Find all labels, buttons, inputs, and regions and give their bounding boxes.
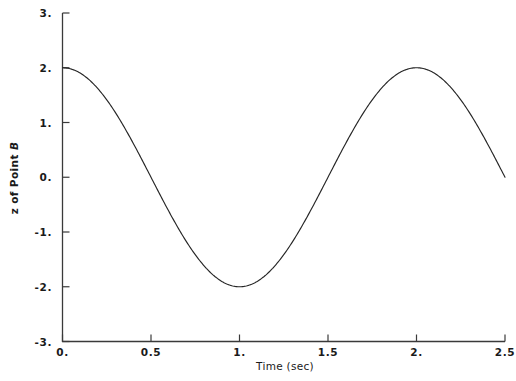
x-axis-title: Time (sec)	[256, 360, 314, 372]
y-axis-title-emphasis: B	[8, 142, 20, 150]
y-axis-title: z of Point B	[8, 142, 20, 215]
x-tick-label: 2.5	[495, 346, 515, 358]
y-axis-ticks	[63, 13, 70, 342]
y-tick-label: 1.	[10, 117, 52, 129]
x-tick-label: 1.	[233, 346, 246, 358]
x-tick-label: 2.	[410, 346, 423, 358]
x-tick-label: 0.5	[141, 346, 161, 358]
x-tick-label: 0.	[56, 346, 69, 358]
y-tick-label: 2.	[10, 62, 52, 74]
y-axis-title-text: z of Point	[8, 150, 20, 214]
x-tick-label: 1.5	[318, 346, 338, 358]
data-series-line	[63, 68, 506, 287]
chart-figure: 3.2.1.0.-1.-2.-3. 0.0.51.1.52.2.5 Time (…	[0, 0, 516, 381]
y-tick-label: -3.	[10, 336, 52, 348]
x-axis-ticks	[63, 335, 506, 342]
plot-canvas	[0, 0, 516, 381]
y-tick-label: -1.	[10, 226, 52, 238]
y-tick-label: 3.	[10, 7, 52, 19]
axis-lines	[62, 13, 505, 342]
y-tick-label: -2.	[10, 281, 52, 293]
